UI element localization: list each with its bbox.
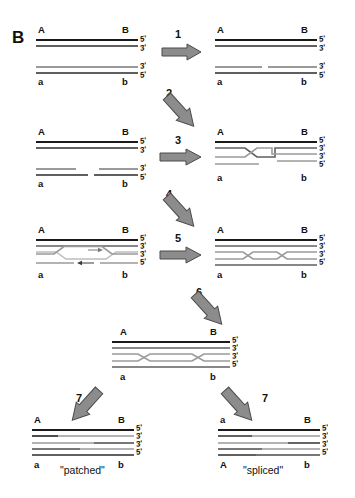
- step-arrow-5: [160, 247, 202, 263]
- strand-bottom-lower-left: [36, 174, 88, 176]
- locus-label-A-bottom: A: [220, 459, 227, 470]
- end-label-5prime-outer-bottom: 5': [318, 258, 326, 267]
- step-arrow-2: [158, 92, 204, 132]
- panel-label-b: B: [12, 28, 24, 48]
- strand-bottom-lower: [36, 72, 138, 74]
- locus-label-B: B: [122, 24, 129, 35]
- locus-label-A: A: [217, 24, 224, 35]
- strand-bottom-upper: [36, 66, 138, 68]
- product-caption-patched: "patched": [60, 464, 105, 476]
- stage-6-double-holliday-junction: A B a b 5' 3' 3' 5': [215, 228, 317, 288]
- strand-bottom-upper-left: [215, 66, 262, 68]
- locus-label-a: a: [38, 269, 43, 280]
- locus-label-A: A: [38, 126, 45, 137]
- strand-top-dark: [36, 141, 138, 143]
- locus-label-b: b: [301, 269, 307, 280]
- end-label-3prime-top: 3': [139, 146, 147, 155]
- locus-label-a: a: [120, 371, 125, 382]
- locus-label-b: b: [301, 76, 307, 87]
- end-label-5prime-outer-bottom: 5': [139, 258, 147, 267]
- locus-label-b: b: [210, 371, 216, 382]
- step-number-5: 5: [175, 232, 181, 244]
- locus-label-b: b: [122, 178, 128, 189]
- end-label-5prime-bottom: 5': [139, 71, 147, 80]
- locus-label-a: a: [38, 178, 43, 189]
- locus-label-a: a: [34, 459, 39, 470]
- locus-label-A: A: [38, 24, 45, 35]
- stage-5-dna-synthesis: A B a b 5' 3' 3' 5': [36, 228, 138, 288]
- locus-label-b: b: [122, 269, 128, 280]
- locus-label-a: a: [217, 172, 222, 183]
- locus-label-b-bottom: b: [304, 459, 310, 470]
- end-label-5prime-outer-bottom: 5': [321, 448, 329, 457]
- strand-bottom-upper-left: [36, 168, 76, 170]
- locus-label-b: b: [301, 172, 307, 183]
- locus-label-b: b: [118, 459, 124, 470]
- end-label-5prime-outer-bottom: 5': [231, 360, 239, 369]
- strand-top-light: [215, 45, 317, 47]
- stage-1-parental-duplexes: A B a b 5' 3' 3' 5': [36, 26, 138, 88]
- stage-4-strand-invasion: A B a b 5' 3' 3' 5': [215, 128, 317, 190]
- locus-label-a: a: [217, 269, 222, 280]
- strand-top-light: [36, 147, 138, 149]
- locus-label-B: B: [122, 126, 129, 137]
- strand-bottom-lower: [215, 72, 317, 74]
- locus-label-a: a: [217, 76, 222, 87]
- step-arrow-4: [158, 192, 204, 232]
- step-number-7-right: 7: [262, 392, 268, 404]
- end-label-5prime-bottom: 5': [318, 71, 326, 80]
- strand-bottom-upper-right: [268, 66, 317, 68]
- step-arrow-1: [162, 44, 202, 60]
- end-label-5prime-bottom: 5': [139, 173, 147, 182]
- locus-label-B: B: [301, 24, 308, 35]
- end-label-5prime-outer-bottom: 5': [318, 160, 326, 169]
- step-number-3: 3: [175, 134, 181, 146]
- strand-bottom-upper-right: [99, 168, 138, 170]
- end-label-5prime-outer-bottom: 5': [135, 448, 143, 457]
- strand-bottom-lower-right: [94, 174, 138, 176]
- end-label-3prime-top: 3': [139, 44, 147, 53]
- step-arrow-6: [186, 290, 232, 330]
- stage-2-nicked-duplex: A B a b 5' 3' 3' 5': [215, 26, 317, 88]
- strand-top-dark: [36, 39, 138, 41]
- stage-7-central-intermediate: A B a b 5' 3' 3' 5': [112, 330, 230, 386]
- locus-label-b: b: [122, 76, 128, 87]
- step-arrow-3: [160, 149, 202, 165]
- recombination-figure: B A B a b 5' 3' 3' 5' 1 A B a b 5' 3': [0, 0, 355, 498]
- product-caption-spliced: "spliced": [243, 464, 283, 476]
- locus-label-a: a: [38, 76, 43, 87]
- end-label-3prime-top: 3': [318, 44, 326, 53]
- strand-top-light: [36, 45, 138, 47]
- step-number-1: 1: [175, 28, 181, 40]
- stage-3-gapped-duplex: A B a b 5' 3' 3' 5': [36, 128, 138, 190]
- strand-top-dark: [215, 39, 317, 41]
